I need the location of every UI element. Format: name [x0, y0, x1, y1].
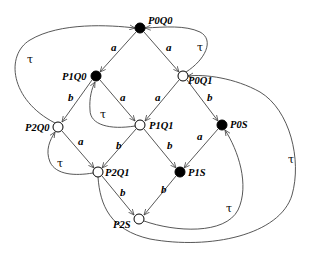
- state-label-p1s: P1S: [188, 167, 206, 178]
- state-node-p1s: [175, 167, 185, 177]
- state-label-p0s: P0S: [230, 119, 248, 130]
- state-label-p0q0: P0Q0: [148, 15, 173, 26]
- state-label-p2q0: P2Q0: [25, 122, 50, 133]
- edge-label-p0q1-p0s: b: [207, 91, 213, 103]
- state-label-p2q1: P2Q1: [105, 167, 130, 178]
- edge-label-p0q1-p0q0: τ: [197, 41, 203, 54]
- edge-p0q0-p0q1: [144, 32, 179, 72]
- edge-label-p2q1-p2s: b: [120, 186, 126, 198]
- edge-label-p1q1-p1q0: τ: [100, 108, 106, 121]
- edge-label-p1q1-p1s: b: [167, 139, 173, 151]
- state-node-p0q1: [178, 71, 188, 81]
- edge-p2q1-p0q1-tau: [98, 76, 295, 243]
- state-node-p0q0: [135, 23, 145, 33]
- edge-label-p2q0-p2q1: a: [78, 135, 84, 147]
- edge-p1q0-p2q0: [62, 80, 92, 122]
- edge-label-p0q0-p0q1: a: [166, 41, 172, 53]
- edge-label-p0q0-p1q0: a: [111, 41, 117, 53]
- edge-label-p2q1-p0q1: τ: [288, 153, 294, 166]
- edge-label-p2q0-p0q0: τ: [27, 53, 33, 66]
- state-label-p1q0: P1Q0: [62, 71, 87, 82]
- edge-label-p2q1-p2q0: τ: [57, 157, 63, 170]
- state-node-p2s: [134, 214, 144, 224]
- state-label-p1q1: P1Q1: [149, 120, 174, 131]
- edge-p2q1-p2s: [102, 176, 134, 215]
- edge-label-p2s-p0s: τ: [226, 202, 232, 215]
- state-node-p1q0: [91, 71, 101, 81]
- state-node-p0s: [217, 120, 227, 130]
- edge-p1s-p2s: [144, 176, 176, 215]
- edge-p0q1-p1q1: [145, 80, 179, 121]
- edge-p0q1-p0s: [187, 80, 218, 121]
- edge-p2q1-p2q0-tau: [48, 132, 93, 174]
- edge-label-p1q1-p2q1: b: [116, 139, 122, 151]
- state-label-p2s: P2S: [113, 219, 131, 230]
- edge-p0q0-p1q0: [100, 32, 136, 72]
- edge-p1q1-p1q0-tau: [90, 82, 135, 127]
- edge-label-p0q1-p1q1: a: [155, 91, 161, 103]
- state-label-p0q1: P0Q1: [188, 75, 213, 86]
- state-node-p2q0: [53, 122, 63, 132]
- edge-label-p1q0-p1q1: a: [120, 91, 126, 103]
- state-transition-diagram: P0Q0 P1Q0 P0Q1 P2Q0 P1Q1 P0S P2Q1 P1S P2…: [0, 0, 309, 256]
- edge-label-p1s-p2s: b: [161, 183, 167, 195]
- state-node-p1q1: [135, 120, 145, 130]
- state-node-p2q1: [93, 167, 103, 177]
- edge-label-p1q0-p2q0: b: [68, 91, 74, 103]
- edge-label-p0s-p1s: a: [197, 130, 203, 142]
- edges: [15, 26, 295, 243]
